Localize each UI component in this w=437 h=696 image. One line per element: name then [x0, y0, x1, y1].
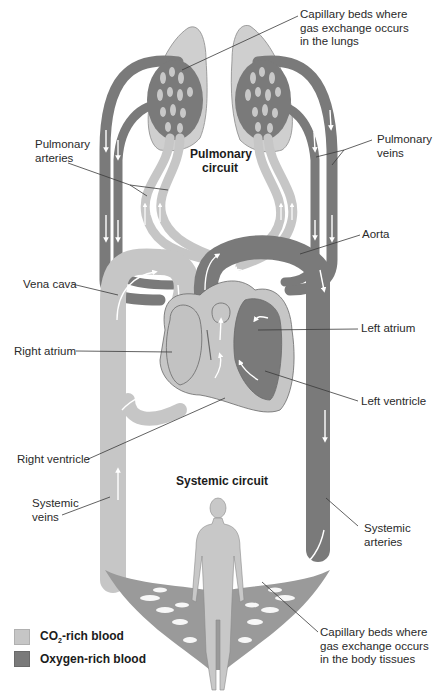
pulmonary-valve [212, 303, 230, 322]
label-systemic-arteries: Systemic arteries [364, 522, 411, 549]
oxygen-rich-swatch [14, 651, 30, 667]
heart [160, 281, 294, 412]
label-capillary-beds-body: Capillary beds where gas exchange occurs… [320, 626, 429, 667]
label-left-ventricle: Left ventricle [361, 395, 426, 409]
label-systemic-circuit: Systemic circuit [176, 475, 268, 489]
label-systemic-veins: Systemic veins [32, 497, 79, 524]
legend-item-co2-rich: CO2-rich blood [14, 626, 146, 648]
label-pulmonary-circuit: Pulmonary circuit [190, 148, 250, 175]
label-right-atrium: Right atrium [14, 345, 76, 359]
label-right-ventricle: Right ventricle [17, 453, 90, 467]
label-left-atrium: Left atrium [361, 322, 415, 336]
label-pulmonary-veins: Pulmonary veins [377, 133, 432, 160]
co2-rich-swatch [14, 629, 30, 645]
legend-item-oxygen-rich: Oxygen-rich blood [14, 648, 146, 670]
lung-capillary-bed-left [147, 60, 203, 140]
label-aorta: Aorta [362, 228, 390, 242]
legend-label-oxygen-rich: Oxygen-rich blood [40, 652, 146, 666]
lung-capillary-bed-right [235, 60, 291, 140]
legend: CO2-rich blood Oxygen-rich blood [14, 626, 146, 670]
label-pulmonary-arteries: Pulmonary arteries [35, 138, 90, 165]
label-capillary-beds-lungs: Capillary beds where gas exchange occurs… [300, 8, 409, 49]
legend-label-co2-rich: CO2-rich blood [40, 629, 124, 644]
label-vena-cava: Vena cava [23, 278, 77, 292]
